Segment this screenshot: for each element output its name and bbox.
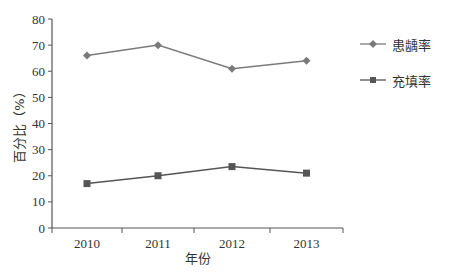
y-tick-label: 50	[32, 90, 45, 105]
y-tick-label: 20	[32, 168, 45, 183]
square-marker-icon	[155, 172, 162, 179]
legend-label: 患龋率	[392, 35, 431, 54]
y-tick-label: 70	[32, 38, 45, 53]
x-tick-label: 2010	[74, 236, 100, 251]
square-marker-icon	[360, 74, 386, 86]
x-tick-label: 2012	[219, 236, 245, 251]
x-tick-label: 2011	[145, 236, 171, 251]
y-axis-title: 百分比（%）	[12, 85, 27, 162]
y-tick-label: 40	[32, 116, 45, 131]
y-tick-label: 60	[32, 64, 45, 79]
diamond-marker-icon	[360, 38, 386, 50]
series-line	[87, 167, 307, 184]
y-tick-label: 10	[32, 194, 45, 209]
x-axis-ticks: 2010201120122013	[52, 228, 343, 251]
diamond-marker-icon	[303, 57, 311, 65]
diamond-marker-icon	[154, 41, 162, 49]
y-axis-ticks: 01020304050607080	[32, 12, 52, 236]
diamond-marker-icon	[228, 65, 236, 73]
y-tick-label: 30	[32, 142, 45, 157]
legend-label: 充填率	[392, 71, 431, 90]
y-tick-label: 0	[39, 221, 46, 236]
square-marker-icon	[303, 170, 310, 177]
square-marker-icon	[229, 163, 236, 170]
series-layer	[83, 41, 311, 187]
square-marker-icon	[84, 180, 91, 187]
legend-item-caries-rate: 患龋率	[360, 34, 431, 54]
diamond-marker-icon	[83, 52, 91, 60]
legend-item-filling-rate: 充填率	[360, 70, 431, 90]
legend: 患龋率 充填率	[360, 34, 431, 106]
series-line	[87, 45, 307, 69]
x-tick-label: 2013	[294, 236, 320, 251]
x-axis-title: 年份	[185, 251, 211, 266]
y-tick-label: 80	[32, 12, 45, 27]
